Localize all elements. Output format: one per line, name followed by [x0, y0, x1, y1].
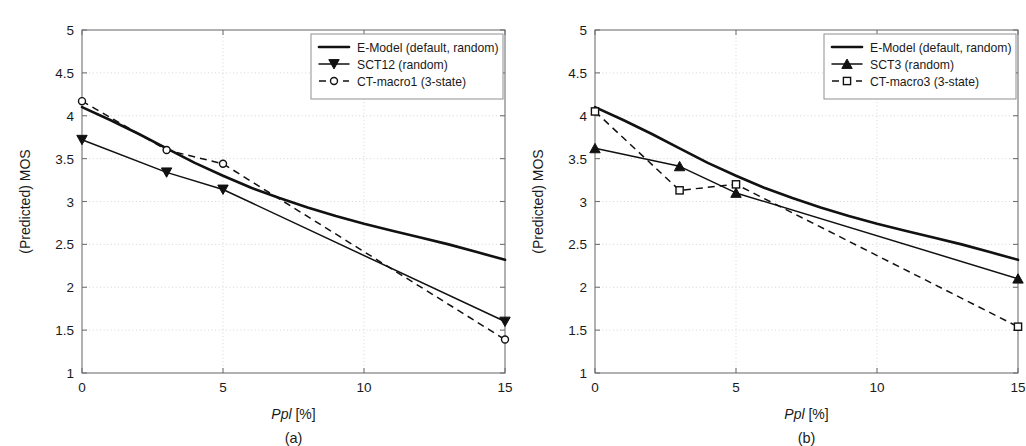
- x-tick-label: 5: [219, 380, 227, 395]
- chart-panel-b: 11.522.533.544.55051015Ppl [%](Predicted…: [513, 0, 1026, 446]
- y-tick-label: 2.5: [55, 237, 74, 252]
- x-tick-label: 0: [591, 380, 599, 395]
- plot-svg-b: 11.522.533.544.55051015Ppl [%](Predicted…: [513, 0, 1026, 446]
- x-axis-title: Ppl [%]: [784, 406, 828, 422]
- legend-label: E-Model (default, random): [870, 41, 1012, 55]
- data-marker-triangle-down-icon: [77, 135, 87, 144]
- data-marker-square-icon: [591, 108, 598, 115]
- data-marker-square-icon: [676, 187, 683, 194]
- x-tick-label: 0: [78, 380, 86, 395]
- series-line: [595, 148, 1018, 278]
- y-axis-title: (Predicted) MOS: [17, 149, 33, 253]
- legend: E-Model (default, random)SCT12 (random)C…: [311, 34, 503, 99]
- data-marker-circle-icon: [220, 160, 227, 167]
- data-marker-triangle-up-icon: [590, 143, 600, 152]
- x-axis-title-unit: [%]: [292, 406, 316, 422]
- data-marker-triangle-up-icon: [1013, 274, 1023, 283]
- y-tick-label: 4.5: [55, 66, 74, 81]
- x-axis-title-unit: [%]: [805, 406, 829, 422]
- data-marker-triangle-down-icon: [161, 168, 171, 177]
- y-tick-label: 1.5: [568, 323, 587, 338]
- x-axis-title-symbol: Ppl: [784, 406, 805, 422]
- series-group: [77, 98, 510, 343]
- legend-label: CT-macro3 (3-state): [870, 75, 979, 89]
- x-axis-title-symbol: Ppl: [271, 406, 292, 422]
- series-3: [79, 98, 509, 343]
- data-marker-triangle-down-icon: [500, 317, 510, 326]
- series-line: [595, 107, 1018, 260]
- series-2: [590, 143, 1023, 283]
- series-2: [77, 135, 510, 326]
- y-tick-label: 5: [66, 23, 74, 38]
- y-tick-label: 5: [579, 23, 587, 38]
- y-tick-label: 3: [579, 195, 587, 210]
- y-tick-label: 3.5: [568, 152, 587, 167]
- x-tick-label: 5: [732, 380, 740, 395]
- panel-caption: (a): [285, 430, 303, 446]
- y-tick-label: 4: [66, 109, 74, 124]
- x-tick-label: 10: [869, 380, 884, 395]
- y-tick-label: 2: [579, 280, 587, 295]
- data-marker-circle-icon: [502, 336, 509, 343]
- data-marker-triangle-up-icon: [731, 188, 741, 197]
- y-tick-label: 1.5: [55, 323, 74, 338]
- legend-label: SCT3 (random): [870, 58, 954, 72]
- data-marker-circle-icon: [79, 98, 86, 105]
- data-marker-circle-icon: [331, 78, 338, 85]
- y-axis-title: (Predicted) MOS: [530, 149, 546, 253]
- data-marker-square-icon: [1014, 323, 1021, 330]
- y-tick-label: 1: [579, 366, 587, 381]
- y-tick-label: 1: [66, 366, 74, 381]
- data-marker-circle-icon: [163, 147, 170, 154]
- panel-caption: (b): [798, 430, 816, 446]
- series-line: [82, 107, 505, 260]
- x-axis-title: Ppl [%]: [271, 406, 315, 422]
- legend-label: SCT12 (random): [357, 58, 448, 72]
- chart-panel-a: 11.522.533.544.55051015Ppl [%](Predicted…: [0, 0, 513, 446]
- legend-label: CT-macro1 (3-state): [357, 75, 466, 89]
- plot-svg-a: 11.522.533.544.55051015Ppl [%](Predicted…: [0, 0, 513, 446]
- data-marker-square-icon: [843, 77, 850, 84]
- y-tick-label: 4.5: [568, 66, 587, 81]
- x-tick-label: 15: [497, 380, 512, 395]
- legend: E-Model (default, random)SCT3 (random)CT…: [824, 34, 1016, 99]
- data-marker-triangle-down-icon: [218, 185, 228, 194]
- y-tick-label: 3: [66, 195, 74, 210]
- data-marker-square-icon: [732, 181, 739, 188]
- x-tick-label: 15: [1010, 380, 1025, 395]
- legend-label: E-Model (default, random): [357, 41, 499, 55]
- series-1: [595, 107, 1018, 260]
- series-3: [591, 108, 1021, 330]
- figure-root: 11.522.533.544.55051015Ppl [%](Predicted…: [0, 0, 1026, 446]
- series-line: [595, 111, 1018, 326]
- y-tick-label: 2.5: [568, 237, 587, 252]
- series-line: [82, 140, 505, 322]
- series-group: [590, 107, 1023, 330]
- y-tick-label: 2: [66, 280, 74, 295]
- series-1: [82, 107, 505, 260]
- y-tick-label: 4: [579, 109, 587, 124]
- y-tick-label: 3.5: [55, 152, 74, 167]
- x-tick-label: 10: [356, 380, 371, 395]
